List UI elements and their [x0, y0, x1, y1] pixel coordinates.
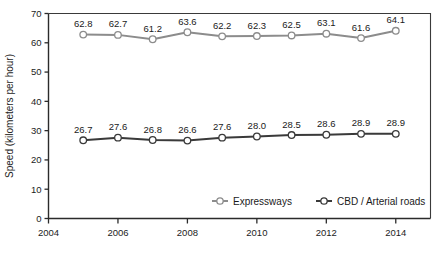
y-tick-label: 70 [31, 8, 42, 19]
data-point-label: 26.6 [178, 124, 197, 135]
legend-marker-icon [217, 198, 223, 204]
y-tick-label: 0 [36, 213, 41, 224]
data-point-label: 28.5 [282, 119, 301, 130]
data-point-marker [288, 32, 295, 39]
data-point-label: 26.7 [74, 124, 93, 135]
x-tick-label: 2008 [177, 227, 198, 238]
data-point-label: 28.0 [248, 120, 267, 131]
legend-label: CBD / Arterial roads [337, 196, 425, 207]
data-point-marker [184, 29, 191, 36]
data-point-marker [80, 137, 87, 144]
data-point-label: 62.5 [282, 19, 301, 30]
plot-frame [48, 14, 431, 219]
data-point-marker [184, 137, 191, 144]
data-point-label: 63.6 [178, 16, 197, 27]
series-line [83, 134, 396, 141]
plot-box-top-right [49, 14, 431, 219]
data-point-label: 62.7 [109, 18, 128, 29]
y-tick-label: 60 [31, 37, 42, 48]
data-point-marker [392, 131, 399, 138]
data-point-marker [149, 137, 156, 144]
data-point-marker [254, 33, 261, 40]
y-tick-label: 30 [31, 125, 42, 136]
data-point-label: 26.8 [143, 124, 162, 135]
data-point-label: 28.6 [317, 118, 336, 129]
data-point-label: 61.6 [352, 22, 371, 33]
series-expressways: 62.862.761.263.662.262.362.563.161.664.1 [74, 14, 405, 42]
y-axis-title: Speed (kilometers per hour) [4, 54, 15, 178]
legend-marker-icon [321, 198, 327, 204]
x-tick-label: 2010 [246, 227, 267, 238]
y-tick-label: 10 [31, 184, 42, 195]
data-point-marker [115, 32, 122, 39]
data-point-label: 28.9 [352, 117, 371, 128]
data-point-label: 62.8 [74, 18, 93, 29]
data-point-marker [149, 36, 156, 43]
data-point-marker [115, 134, 122, 141]
y-tick-label: 20 [31, 154, 42, 165]
data-point-marker [323, 30, 330, 37]
data-point-marker [219, 134, 226, 141]
data-point-label: 61.2 [143, 23, 162, 34]
y-tick-label: 50 [31, 66, 42, 77]
data-point-label: 27.6 [213, 121, 232, 132]
data-point-label: 62.2 [213, 20, 232, 31]
data-point-marker [358, 131, 365, 138]
data-point-marker [254, 133, 261, 140]
data-point-label: 63.1 [317, 17, 336, 28]
y-tick-label: 40 [31, 96, 42, 107]
legend-item-expressways[interactable]: Expressways [212, 196, 292, 207]
data-point-marker [392, 27, 399, 34]
data-point-marker [288, 132, 295, 139]
x-tick-label: 2014 [385, 227, 406, 238]
x-tick-label: 2012 [316, 227, 337, 238]
x-tick-label: 2004 [38, 227, 59, 238]
data-point-marker [323, 131, 330, 138]
legend-label: Expressways [233, 196, 292, 207]
series-cbd-arterial-roads: 26.727.626.826.627.628.028.528.628.928.9 [74, 117, 405, 144]
data-point-label: 27.6 [109, 121, 128, 132]
x-tick-label: 2006 [107, 227, 128, 238]
legend-item-cbd-arterial-roads[interactable]: CBD / Arterial roads [316, 196, 425, 207]
speed-line-chart: 010203040506070200420062008201020122014S… [0, 0, 439, 254]
data-point-label: 62.3 [248, 20, 267, 31]
data-point-marker [80, 31, 87, 38]
data-point-marker [358, 35, 365, 42]
chart-canvas: 010203040506070200420062008201020122014S… [0, 0, 439, 254]
y-axis-ticks: 010203040506070 [31, 8, 49, 224]
x-axis-ticks: 200420062008201020122014 [38, 219, 406, 238]
data-point-label: 28.9 [387, 117, 406, 128]
series-line [83, 31, 396, 39]
data-point-marker [219, 33, 226, 40]
data-point-label: 64.1 [387, 14, 406, 25]
